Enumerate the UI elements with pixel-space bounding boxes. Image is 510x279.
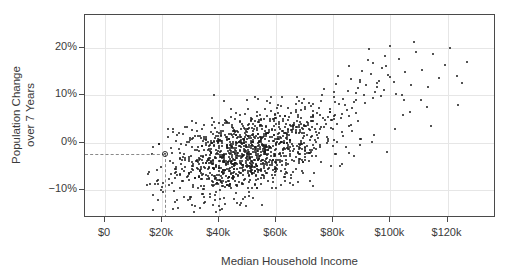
data-point bbox=[318, 107, 320, 109]
data-point bbox=[180, 163, 182, 165]
data-point bbox=[383, 89, 385, 91]
data-point bbox=[241, 143, 243, 145]
data-point bbox=[231, 156, 233, 158]
y-axis-title: Population Change over 7 Years bbox=[0, 0, 46, 230]
data-point bbox=[267, 132, 269, 134]
data-point bbox=[273, 134, 275, 136]
data-point bbox=[195, 122, 197, 124]
data-point bbox=[209, 193, 211, 195]
data-point bbox=[162, 182, 164, 184]
data-point bbox=[252, 130, 254, 132]
data-point bbox=[270, 151, 272, 153]
data-point bbox=[289, 182, 291, 184]
data-point bbox=[301, 170, 303, 172]
data-point bbox=[190, 155, 192, 157]
data-point bbox=[245, 141, 247, 143]
data-point bbox=[182, 133, 184, 135]
data-point bbox=[254, 170, 256, 172]
y-axis-title-line2: over 7 Years bbox=[24, 83, 36, 147]
data-point bbox=[312, 144, 314, 146]
data-point bbox=[200, 185, 202, 187]
data-point bbox=[415, 51, 417, 53]
data-point bbox=[254, 120, 256, 122]
data-point bbox=[291, 131, 293, 133]
data-point bbox=[225, 175, 227, 177]
data-point bbox=[308, 152, 310, 154]
data-point bbox=[444, 64, 446, 66]
data-point bbox=[223, 161, 225, 163]
y-tick-label: 10% bbox=[55, 87, 77, 99]
data-point bbox=[380, 95, 382, 97]
data-point bbox=[210, 152, 212, 154]
data-point bbox=[272, 177, 274, 179]
data-point bbox=[196, 167, 198, 169]
data-point bbox=[208, 178, 210, 180]
data-point bbox=[270, 96, 272, 98]
scatter-plot-figure: Population Change over 7 Years −10%0%10%… bbox=[0, 0, 510, 279]
data-point bbox=[280, 137, 282, 139]
data-point bbox=[260, 163, 262, 165]
data-point bbox=[253, 159, 255, 161]
data-point bbox=[372, 97, 374, 99]
data-point bbox=[215, 211, 217, 213]
data-point bbox=[353, 155, 355, 157]
data-point bbox=[353, 101, 355, 103]
data-point bbox=[185, 144, 187, 146]
data-point bbox=[316, 123, 318, 125]
data-point bbox=[466, 61, 468, 63]
data-point bbox=[403, 99, 405, 101]
data-point bbox=[225, 163, 227, 165]
data-point bbox=[250, 153, 252, 155]
data-point bbox=[265, 126, 267, 128]
data-point bbox=[257, 98, 259, 100]
data-point bbox=[202, 162, 204, 164]
data-point bbox=[203, 149, 205, 151]
data-point bbox=[233, 165, 235, 167]
data-point bbox=[199, 207, 201, 209]
data-point bbox=[274, 171, 276, 173]
data-point bbox=[224, 186, 226, 188]
data-point bbox=[183, 170, 185, 172]
data-point bbox=[234, 159, 236, 161]
data-point bbox=[280, 105, 282, 107]
data-point bbox=[247, 124, 249, 126]
data-point bbox=[307, 124, 309, 126]
data-point bbox=[228, 176, 230, 178]
data-point bbox=[318, 132, 320, 134]
data-point bbox=[171, 182, 173, 184]
data-point bbox=[233, 168, 235, 170]
data-point bbox=[295, 156, 297, 158]
data-point bbox=[324, 119, 326, 121]
y-tick-label: −10% bbox=[49, 182, 77, 194]
data-point bbox=[226, 139, 228, 141]
data-point bbox=[256, 129, 258, 131]
data-point bbox=[295, 103, 297, 105]
data-point bbox=[308, 102, 310, 104]
guide-line-vertical bbox=[165, 154, 166, 217]
data-point bbox=[174, 172, 176, 174]
data-point bbox=[172, 208, 174, 210]
data-point bbox=[282, 130, 284, 132]
data-point bbox=[203, 196, 205, 198]
data-point bbox=[312, 103, 314, 105]
data-point bbox=[228, 122, 230, 124]
data-point bbox=[233, 198, 235, 200]
data-point bbox=[179, 152, 181, 154]
data-point bbox=[376, 86, 378, 88]
data-point bbox=[223, 100, 225, 102]
data-point bbox=[381, 67, 383, 69]
data-point bbox=[235, 192, 237, 194]
data-point bbox=[306, 134, 308, 136]
data-point bbox=[167, 128, 169, 130]
data-point bbox=[264, 108, 266, 110]
data-point bbox=[394, 128, 396, 130]
data-point bbox=[371, 141, 373, 143]
data-point bbox=[284, 180, 286, 182]
data-point bbox=[311, 155, 313, 157]
data-point bbox=[188, 160, 190, 162]
data-point bbox=[167, 136, 169, 138]
x-tick-mark bbox=[161, 217, 162, 222]
data-point bbox=[271, 164, 273, 166]
data-point bbox=[203, 124, 205, 126]
data-point bbox=[301, 132, 303, 134]
